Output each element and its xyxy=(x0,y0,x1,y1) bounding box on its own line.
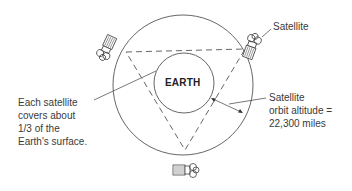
coverage-line-1: Each satellite xyxy=(18,96,87,109)
altitude-label: Satellite orbit altitude = 22,300 miles xyxy=(269,91,332,130)
altitude-leader-line xyxy=(229,98,266,104)
earth-label: EARTH xyxy=(165,77,200,88)
satellite-leader-line xyxy=(262,29,271,37)
coverage-label: Each satellite covers about 1/3 of the E… xyxy=(18,96,87,148)
coverage-leader-line xyxy=(94,71,156,100)
coverage-line-3: 1/3 of the xyxy=(18,122,87,135)
altitude-arrow xyxy=(211,98,243,113)
satellite-icon xyxy=(94,33,118,62)
satellite-icon xyxy=(241,31,263,60)
coverage-line-2: covers about xyxy=(18,109,87,122)
altitude-line-3: 22,300 miles xyxy=(269,117,332,130)
coverage-line-4: Earth's surface. xyxy=(18,135,87,148)
coverage-triangle xyxy=(126,49,245,150)
satellite-label: Satellite xyxy=(273,20,309,33)
satellite-icon xyxy=(173,164,199,178)
altitude-line-1: Satellite xyxy=(269,91,332,104)
altitude-line-2: orbit altitude = xyxy=(269,104,332,117)
